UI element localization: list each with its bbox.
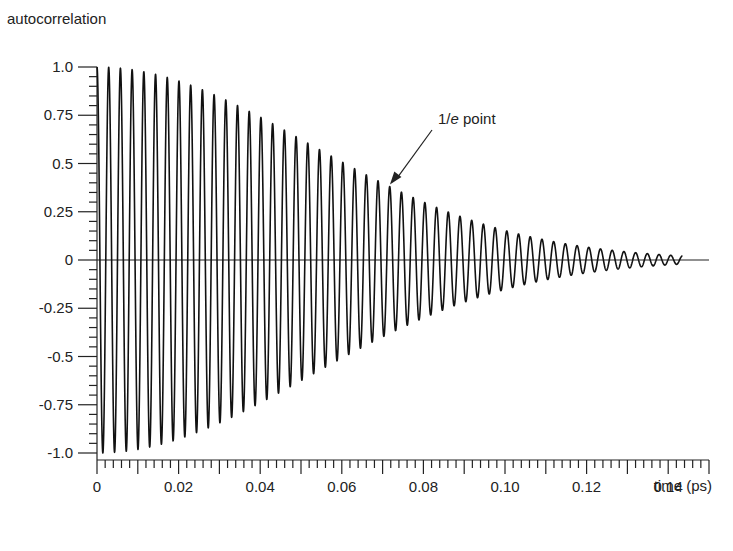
- annotation-prefix: 1/: [438, 110, 451, 127]
- annotation-suffix: point: [459, 110, 497, 127]
- y-tick-label: -0.5: [47, 348, 73, 365]
- annotation-italic: e: [451, 110, 459, 127]
- y-tick-label: 0: [65, 251, 73, 268]
- x-tick-label: 0.10: [490, 478, 519, 495]
- x-tick-label: 0.12: [572, 478, 601, 495]
- x-tick-label: 0.08: [409, 478, 438, 495]
- y-tick-label: -1.0: [47, 444, 73, 461]
- x-tick-label: 0.06: [327, 478, 356, 495]
- y-tick-label: 0.75: [44, 106, 73, 123]
- y-axis-label: autocorrelation: [7, 10, 106, 27]
- y-tick-label: -0.25: [39, 299, 73, 316]
- y-tick-label: 1.0: [52, 58, 73, 75]
- annotation-label: 1/e point: [438, 110, 496, 127]
- annotation-arrow-line: [396, 130, 432, 180]
- x-tick-label: 0: [93, 478, 101, 495]
- x-tick-label: 0.14: [654, 478, 683, 495]
- y-axis: 1.00.750.50.250-0.25-0.5-0.75-1.0: [39, 58, 97, 461]
- annotation-1e-point: 1/e point: [390, 110, 496, 185]
- x-tick-label: 0.04: [246, 478, 275, 495]
- autocorrelation-chart: autocorrelation time (ps) 1.00.750.50.25…: [0, 0, 733, 551]
- y-tick-label: 0.5: [52, 155, 73, 172]
- x-tick-label: 0.02: [164, 478, 193, 495]
- x-axis: 00.020.040.060.080.100.120.14: [93, 460, 709, 495]
- y-tick-label: 0.25: [44, 203, 73, 220]
- y-tick-label: -0.75: [39, 396, 73, 413]
